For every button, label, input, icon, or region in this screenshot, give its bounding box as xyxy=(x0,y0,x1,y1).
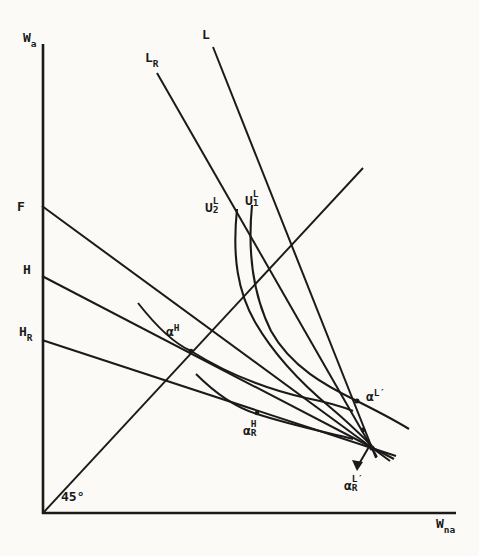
label-point-alpha-H: αH xyxy=(166,325,180,339)
arrow-down-shaft xyxy=(359,445,370,464)
label-line-F: F xyxy=(17,200,25,213)
label-y-axis: Wa xyxy=(23,31,37,45)
diagram-canvas xyxy=(0,0,479,556)
line-H xyxy=(42,276,394,459)
label-line-LR: LR xyxy=(145,51,159,65)
line-LR xyxy=(157,73,377,457)
label-curve-U1L: UL1 xyxy=(245,192,259,210)
label-angle-45: 45° xyxy=(61,490,84,503)
line-F xyxy=(42,206,390,461)
point-alpha-H xyxy=(189,349,194,354)
line-L xyxy=(213,47,376,458)
point-alpha-Lprime xyxy=(355,399,360,404)
point-alpha-HR xyxy=(255,411,260,416)
wage-diagram-figure: Wa Wna 45° L LR F H HR UL2 UL1 αH αHR αL… xyxy=(0,0,479,556)
label-point-alpha-HR: αHR xyxy=(243,422,257,440)
label-line-H: H xyxy=(23,263,31,276)
label-point-alpha-Lprime: αL′ xyxy=(366,390,385,404)
label-line-HR: HR xyxy=(19,325,33,339)
label-point-alpha-LprimeR: αL′R xyxy=(344,477,363,495)
line-45deg xyxy=(43,168,363,513)
label-x-axis: Wna xyxy=(436,517,455,531)
label-curve-U2L: UL2 xyxy=(205,199,219,217)
label-line-L: L xyxy=(202,28,210,41)
point-intersection xyxy=(361,428,366,433)
